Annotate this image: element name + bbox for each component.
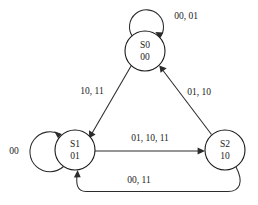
state-s2-encoding: 10 bbox=[220, 151, 230, 161]
state-s1-name: S1 bbox=[70, 139, 80, 149]
transition-s0-to-s1 bbox=[89, 66, 131, 139]
s0-to-s1-path bbox=[91, 66, 131, 135]
state-node-s1[interactable]: S1 01 bbox=[55, 130, 95, 170]
s2-to-s0-path bbox=[162, 69, 212, 135]
transition-s1-to-s2 bbox=[95, 148, 205, 155]
state-s0-encoding: 00 bbox=[140, 52, 150, 62]
transition-label-s1-self: 00 bbox=[9, 146, 19, 156]
fsm-canvas: S0 00 S1 01 S2 10 00, 01 00 10, 11 01, 1… bbox=[0, 0, 258, 205]
transition-label-s1-to-s2: 01, 10, 11 bbox=[131, 133, 169, 143]
transition-s2-to-s0 bbox=[159, 66, 211, 135]
transition-label-s0-self: 00, 01 bbox=[174, 11, 198, 21]
s2-to-s0-arrowhead bbox=[159, 66, 166, 73]
state-s1-encoding: 01 bbox=[70, 151, 80, 161]
state-s2-name: S2 bbox=[220, 139, 230, 149]
transition-label-s2-to-s1: 00, 11 bbox=[127, 175, 151, 185]
s1-to-s2-arrowhead bbox=[198, 148, 205, 155]
transition-s2-to-s1 bbox=[74, 167, 240, 192]
state-diagram: S0 00 S1 01 S2 10 00, 01 00 10, 11 01, 1… bbox=[0, 0, 258, 205]
s2-to-s1-arrowhead bbox=[74, 170, 81, 177]
state-node-s0[interactable]: S0 00 bbox=[125, 31, 165, 71]
s2-to-s1-path bbox=[77, 167, 240, 192]
transition-label-s0-to-s1: 10, 11 bbox=[80, 86, 104, 96]
transition-label-s2-to-s0: 01, 10 bbox=[187, 87, 211, 97]
state-s0-name: S0 bbox=[140, 40, 150, 50]
state-node-s2[interactable]: S2 10 bbox=[205, 130, 245, 170]
